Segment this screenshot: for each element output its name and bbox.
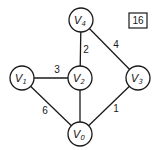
total-weight-value: 16 (132, 15, 144, 26)
weighted-graph-diagram: 36241 V0V1V2V3V4 16 (0, 0, 161, 150)
node-v2: V2 (68, 66, 92, 90)
nodes-layer: V0V1V2V3V4 (10, 8, 150, 146)
node-v0: V0 (68, 122, 92, 146)
edge-weight-label: 3 (54, 64, 60, 75)
node-v4: V4 (69, 8, 93, 32)
node-v3: V3 (126, 66, 150, 90)
edge-weight-label: 4 (113, 39, 119, 50)
edge-weight-label: 1 (113, 103, 119, 114)
edge-weight-label: 6 (42, 105, 48, 116)
node-v1: V1 (10, 66, 34, 90)
total-weight-box: 16 (129, 13, 147, 28)
edge-weight-label: 2 (83, 44, 89, 55)
